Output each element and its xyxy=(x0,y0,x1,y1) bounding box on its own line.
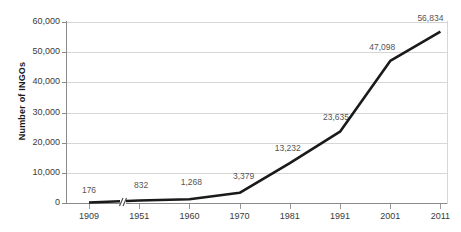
data-series-line xyxy=(0,0,461,232)
line-chart: Number of INGOs 010,00020,00030,00040,00… xyxy=(0,0,461,232)
axis-break-marker xyxy=(116,195,130,209)
